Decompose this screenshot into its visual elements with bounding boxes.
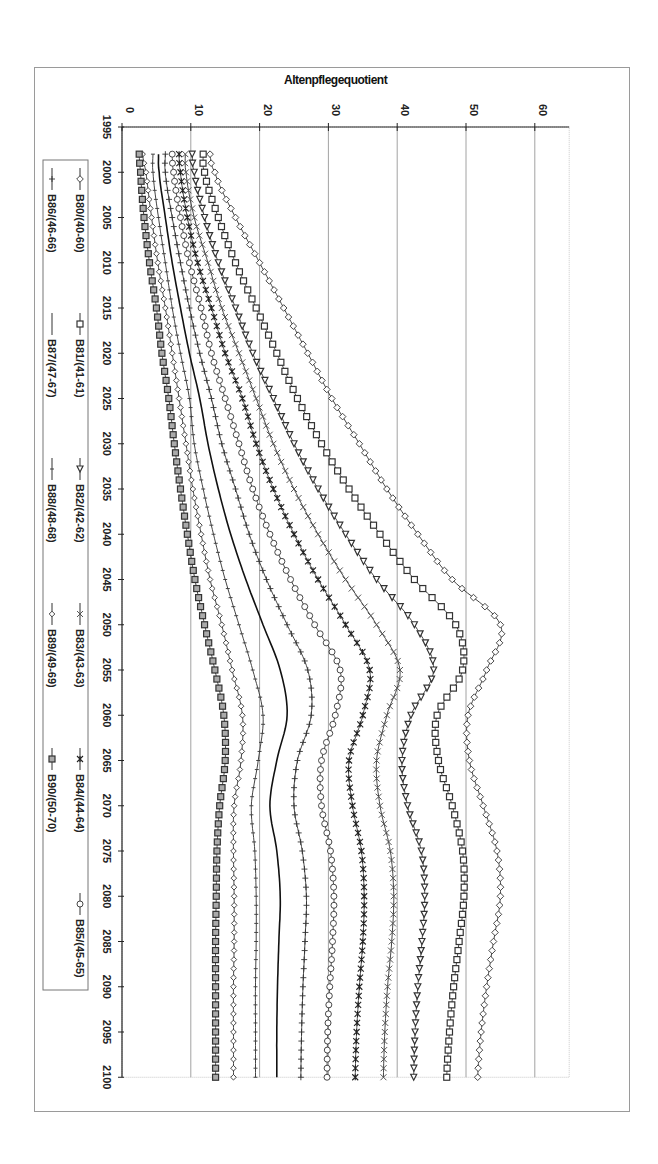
marker-plus: [299, 1029, 305, 1035]
marker-diamond: [231, 848, 237, 854]
marker-circle: [323, 640, 329, 646]
marker-plus: [309, 703, 315, 709]
marker-square: [206, 640, 212, 646]
marker-star: [367, 676, 373, 682]
marker-circle: [323, 739, 329, 745]
marker-x: [395, 658, 401, 664]
marker-circle: [324, 830, 330, 836]
marker-x: [355, 595, 361, 601]
marker-diamond: [492, 929, 499, 936]
marker-diamond: [300, 341, 307, 348]
marker-square: [213, 966, 219, 972]
marker-diamond: [231, 993, 237, 999]
marker-star: [362, 703, 368, 709]
marker-star: [359, 649, 365, 655]
year-tick-label: 2060: [101, 703, 113, 727]
marker-circle: [198, 305, 204, 311]
marker-square: [453, 966, 459, 972]
marker-square: [141, 215, 147, 221]
marker-circle: [317, 767, 323, 773]
marker-diamond: [487, 956, 494, 963]
marker-star: [225, 359, 231, 365]
marker-plus: [162, 169, 168, 175]
marker-star: [197, 269, 203, 275]
marker-square: [213, 975, 219, 981]
marker-square: [149, 278, 155, 284]
marker-triangle: [400, 776, 406, 782]
marker-square: [142, 224, 148, 230]
marker-x: [391, 694, 397, 700]
marker-star: [357, 721, 363, 727]
marker-square: [450, 685, 456, 691]
marker-square: [209, 196, 215, 202]
marker-plus: [195, 341, 201, 347]
marker-plus: [204, 377, 210, 383]
marker-diamond: [495, 857, 502, 864]
marker-square: [196, 595, 202, 601]
marker-triangle: [219, 269, 225, 275]
marker-star: [361, 884, 367, 890]
marker-triangle: [418, 948, 424, 954]
marker-triangle: [421, 911, 427, 917]
marker-star: [348, 631, 354, 637]
marker-square: [183, 522, 189, 528]
marker-diamond: [231, 875, 237, 881]
marker-diamond: [483, 983, 490, 990]
marker-diamond: [231, 812, 237, 818]
marker-square: [432, 721, 438, 727]
marker-square: [457, 631, 463, 637]
marker-square: [390, 549, 396, 555]
marker-diamond: [231, 957, 237, 963]
marker-star: [270, 486, 276, 492]
marker-square: [137, 160, 143, 166]
marker-square: [212, 205, 218, 211]
legend-label: B85/(45-65): [74, 919, 86, 978]
marker-diamond: [497, 621, 504, 628]
marker-square: [452, 975, 458, 981]
marker-square: [445, 1047, 451, 1053]
marker-star: [337, 613, 343, 619]
value-tick-label: 10: [193, 104, 205, 116]
marker-diamond: [463, 730, 470, 737]
marker-circle: [179, 224, 185, 230]
marker-x: [213, 287, 219, 293]
marker-star: [326, 595, 332, 601]
marker-diamond: [231, 1029, 237, 1035]
marker-plus: [298, 1065, 304, 1071]
legend-label: B83/(43-63): [74, 629, 86, 688]
marker-diamond: [185, 450, 191, 456]
marker-triangle: [424, 685, 430, 691]
marker-circle: [181, 233, 187, 239]
marker-plus: [216, 432, 222, 438]
marker-star: [361, 920, 367, 926]
marker-diamond: [165, 323, 171, 329]
marker-circle: [317, 776, 323, 782]
year-tick-label: 2095: [101, 1020, 113, 1044]
year-tick-label: 2000: [101, 160, 113, 184]
marker-diamond: [485, 974, 492, 981]
marker-plus: [297, 748, 303, 754]
marker-diamond: [231, 1056, 237, 1062]
marker-circle: [330, 721, 336, 727]
year-tick-label: 2085: [101, 929, 113, 953]
marker-square: [458, 920, 464, 926]
value-tick-label: 50: [468, 104, 480, 116]
marker-x: [270, 441, 276, 447]
marker-circle: [174, 196, 180, 202]
marker-square: [448, 1011, 454, 1017]
marker-square: [461, 658, 467, 664]
marker-triangle: [405, 721, 411, 727]
marker-plus: [298, 1047, 304, 1053]
marker-plus: [224, 459, 230, 465]
marker-diamond: [240, 722, 246, 728]
marker-plus: [201, 368, 207, 374]
marker-circle: [334, 658, 340, 664]
marker-diamond: [156, 269, 162, 275]
series-line: [165, 154, 312, 1077]
marker-plus: [177, 260, 183, 266]
marker-square: [444, 1065, 450, 1071]
marker-triangle: [236, 314, 242, 320]
marker-star: [352, 1074, 358, 1080]
marker-star: [320, 586, 326, 592]
marker-square: [202, 622, 208, 628]
